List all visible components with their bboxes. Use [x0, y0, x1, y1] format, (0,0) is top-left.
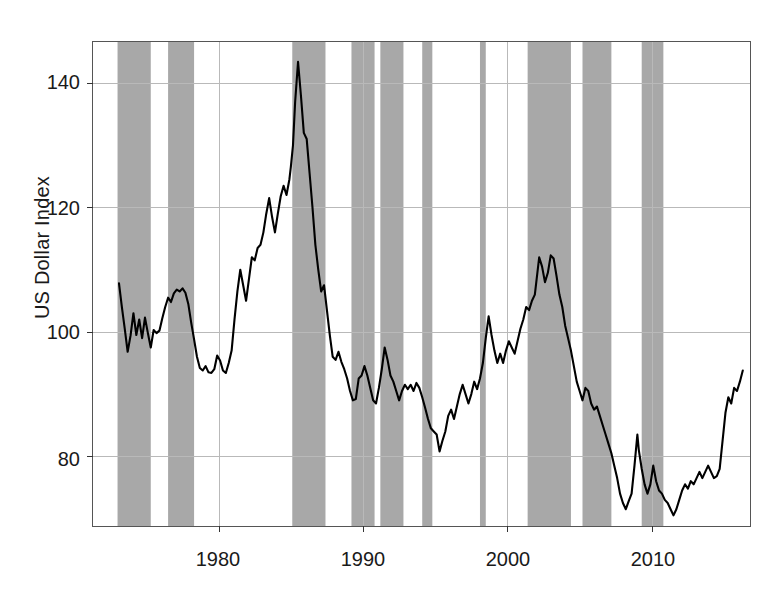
- chart-container: US Dollar Index 140 120 100 80 1980 1990…: [0, 0, 781, 608]
- recession-bands: [118, 42, 664, 526]
- plot-area: [0, 0, 781, 608]
